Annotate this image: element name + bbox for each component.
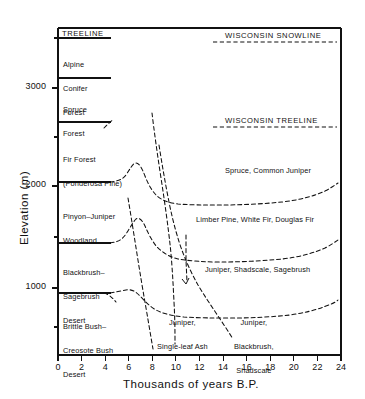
x-tick-label-22: 22 bbox=[307, 363, 327, 373]
curve-short-link-upper bbox=[104, 119, 114, 128]
x-tick-label-14: 14 bbox=[213, 363, 233, 373]
x-tick-label-24: 24 bbox=[331, 363, 351, 373]
zone-label-line: Blackbrush– bbox=[63, 269, 105, 277]
zone-label-line: (Ponderosa Pine) bbox=[63, 180, 122, 188]
y-tick-label-3000: 3000 bbox=[8, 82, 46, 92]
curve-arrowhead bbox=[182, 278, 189, 284]
x-tick-label-20: 20 bbox=[284, 363, 304, 373]
zone-label-fir-forest: Fir Forest (Ponderosa Pine) bbox=[63, 140, 122, 204]
annotation-line: Single-leaf Ash bbox=[157, 343, 208, 351]
annotation-juniper-shadscale-sagebrush: Juniper, Shadscale, Sagebrush bbox=[205, 266, 310, 274]
chart-figure: Elevation (m) 3000 2000 1000 0 2 4 6 8 1… bbox=[0, 0, 365, 399]
curve-steep-decline-b bbox=[128, 198, 153, 349]
zone-label-line: Woodland bbox=[63, 237, 115, 245]
curve-mid-forest-limit bbox=[110, 218, 338, 262]
curve-lower-woodland-limit bbox=[110, 290, 338, 318]
curve-short-link-lower bbox=[104, 293, 116, 302]
zone-label-line: Alpine bbox=[63, 61, 88, 69]
y-tick-label-1000: 1000 bbox=[8, 282, 46, 292]
zone-label-line: Sagebrush bbox=[63, 293, 105, 301]
reference-lines bbox=[213, 42, 337, 127]
zone-label-line: Creosote Bush bbox=[63, 347, 113, 355]
annotation-line: Shadscale bbox=[234, 367, 274, 375]
annotation-line: Blackbrush, bbox=[234, 343, 274, 351]
zone-label-line: Brittle Bush– bbox=[63, 323, 113, 331]
y-axis-ticks bbox=[52, 38, 58, 327]
annotation-line: Juniper, bbox=[157, 319, 208, 327]
zone-label-line: Pinyon–Juniper bbox=[63, 213, 115, 221]
reference-label-wisconsin-treeline: WISCONSIN TREELINE bbox=[225, 117, 318, 125]
annotation-juniper-single-leaf-ash: Juniper, Single-leaf Ash bbox=[157, 303, 208, 367]
annotation-line: Juniper, bbox=[234, 319, 274, 327]
reference-label-wisconsin-snowline: WISCONSIN SNOWLINE bbox=[225, 32, 321, 40]
zone-label-line: Forest bbox=[63, 130, 87, 138]
x-tick-label-6: 6 bbox=[119, 363, 139, 373]
annotation-juniper-blackbrush-shadscale: Juniper, Blackbrush, Shadscale bbox=[234, 303, 274, 391]
zone-label-pinyon-juniper-woodland: Pinyon–Juniper Woodland bbox=[63, 197, 115, 261]
zone-label-line: Spruce bbox=[63, 106, 87, 114]
zone-label-brittle-creosote-bush-desert: Brittle Bush– Creosote Bush Desert bbox=[63, 307, 113, 395]
curve-vertical-connector bbox=[186, 235, 187, 282]
y-tick-label-2000: 2000 bbox=[8, 180, 46, 190]
zone-label-line: Fir Forest bbox=[63, 156, 122, 164]
annotation-spruce-common-juniper: Spruce, Common Juniper bbox=[225, 167, 311, 175]
annotation-limber-pine-white-fir-douglas-fir: Limber Pine, White Fir, Douglas Fir bbox=[196, 216, 314, 224]
vegetation-limit-curves bbox=[104, 113, 338, 349]
zone-label-treeline: TREELINE bbox=[62, 30, 104, 38]
zone-label-line: Desert bbox=[63, 371, 113, 379]
